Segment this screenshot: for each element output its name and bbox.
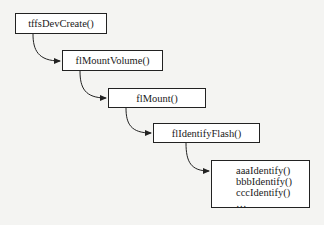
arrow-n3-n4 [126, 108, 151, 133]
list-item: cccIdentify() [236, 187, 309, 198]
node-tffsdevcreate: tffsDevCreate() [15, 13, 107, 34]
node-identify-list: aaaIdentify() bbbIdentify() cccIdentify(… [211, 160, 310, 208]
node-flidentifyflash: flIdentifyFlash() [153, 123, 260, 143]
node-flmount: flMount() [108, 88, 206, 108]
list-item: aaaIdentify() [236, 165, 309, 176]
list-item: … [236, 198, 309, 209]
arrow-n2-n3 [80, 71, 106, 98]
arrow-n1-n2 [33, 34, 60, 61]
list-item: bbbIdentify() [236, 176, 309, 187]
arrow-n4-n5 [186, 143, 209, 171]
node-flmountvolume: flMountVolume() [62, 50, 163, 71]
